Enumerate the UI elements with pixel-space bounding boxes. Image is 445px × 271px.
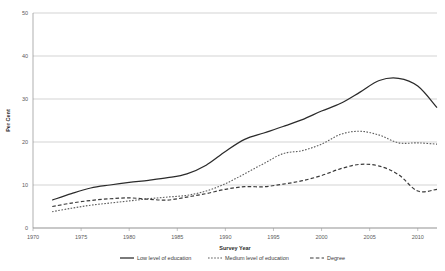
legend-label-3: Degree — [327, 255, 345, 261]
series-line-1 — [52, 78, 437, 200]
y-tick-label: 0 — [25, 225, 28, 231]
line-chart: 0102030405019701975198019851990199520002… — [0, 0, 445, 271]
x-tick-label: 1990 — [219, 234, 231, 240]
x-tick-label: 1980 — [123, 234, 135, 240]
legend-label-1: Low level of education — [137, 255, 191, 261]
x-axis-title: Survey Year — [219, 245, 251, 251]
y-tick-label: 40 — [22, 53, 28, 59]
x-tick-label: 2010 — [412, 234, 424, 240]
series-line-2 — [52, 131, 437, 211]
chart-container: 0102030405019701975198019851990199520002… — [0, 0, 445, 271]
y-tick-label: 10 — [22, 182, 28, 188]
x-tick-label: 1975 — [75, 234, 87, 240]
y-tick-label: 20 — [22, 139, 28, 145]
x-tick-label: 2000 — [315, 234, 327, 240]
y-tick-label: 50 — [22, 10, 28, 16]
x-tick-label: 1995 — [267, 234, 279, 240]
y-axis-title: Per Cent — [5, 109, 11, 132]
x-tick-label: 1985 — [171, 234, 183, 240]
legend-label-2: Medium level of education — [225, 255, 289, 261]
y-tick-label: 30 — [22, 96, 28, 102]
x-tick-label: 1970 — [27, 234, 39, 240]
x-tick-label: 2005 — [364, 234, 376, 240]
